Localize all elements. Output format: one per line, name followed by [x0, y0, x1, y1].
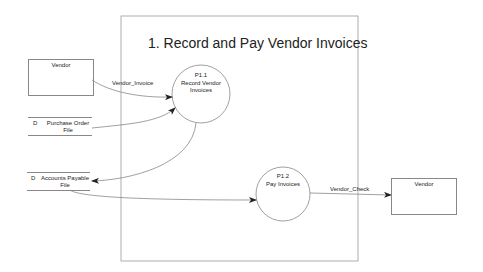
flow-vendor-check[interactable] — [310, 193, 391, 195]
flow-accounts-payable-to-pay[interactable] — [70, 190, 256, 200]
external-entity-vendor-left[interactable]: Vendor — [28, 59, 94, 96]
entity-label: Vendor — [29, 62, 93, 69]
data-store-accounts-payable-file[interactable]: D Accounts Payable File — [27, 172, 90, 191]
data-store-marker: D — [31, 175, 35, 182]
entity-label: Vendor — [392, 181, 456, 188]
flow-to-accounts-payable[interactable] — [92, 123, 196, 181]
flow-purchase-order[interactable] — [92, 108, 175, 128]
process-p1-1-label-line1: Record Vendor — [172, 80, 230, 87]
data-store-label-line2: File — [42, 127, 94, 134]
process-boundary — [121, 16, 358, 261]
external-entity-vendor-right[interactable]: Vendor — [391, 178, 457, 215]
process-p1-1-label-line2: Invoices — [172, 87, 230, 94]
process-p1-2-id: P1.2 — [256, 173, 310, 180]
data-store-marker: D — [33, 120, 37, 127]
process-p1-1-id: P1.1 — [172, 72, 230, 79]
data-store-label-line2: File — [39, 182, 91, 189]
flow-label-vendor-invoice: Vendor_Invoice — [112, 80, 153, 87]
process-p1-2-label: Pay Invoices — [256, 181, 310, 188]
flow-label-vendor-check: Vendor_Check — [330, 186, 369, 193]
data-store-label-line1: Purchase Order — [42, 120, 94, 127]
data-store-purchase-order-file[interactable]: D Purchase Order File — [28, 117, 92, 136]
data-store-label-line1: Accounts Payable — [39, 175, 91, 182]
diagram-title: 1. Record and Pay Vendor Invoices — [148, 35, 367, 51]
